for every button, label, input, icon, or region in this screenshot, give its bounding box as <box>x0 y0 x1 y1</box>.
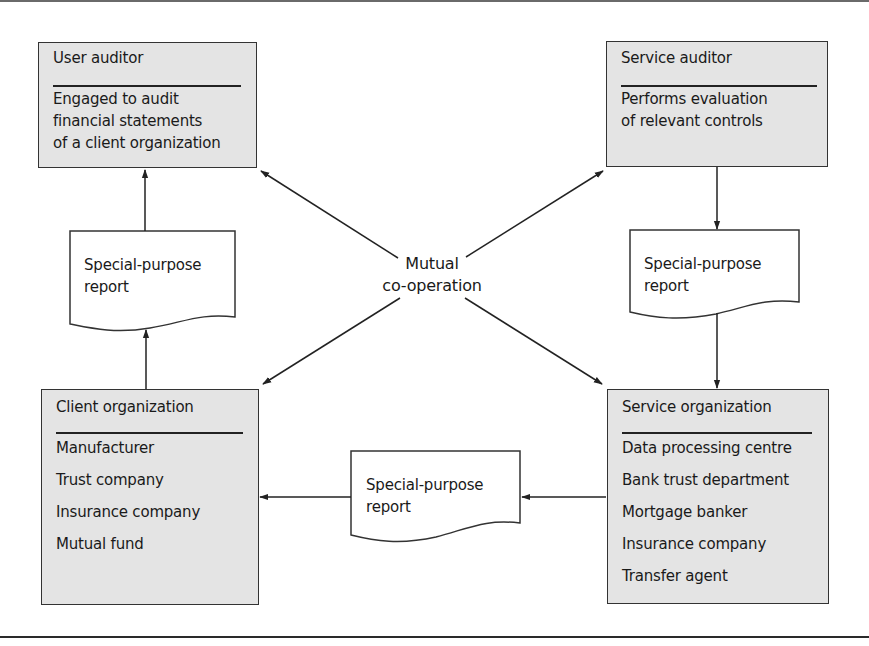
service-auditor-line: Performs evaluation <box>621 90 768 108</box>
title-underline <box>53 85 241 87</box>
arrow-mutual-to-user-auditor <box>261 171 398 258</box>
arrow-mutual-to-client <box>263 298 400 384</box>
service-organization-item: Insurance company <box>622 535 766 553</box>
client-organization-item: Trust company <box>56 471 164 489</box>
user-auditor-line: of a client organization <box>53 134 221 152</box>
mutual-cooperation-label: Mutual co-operation <box>372 253 492 297</box>
report-bottom-label: Special-purpose report <box>366 474 483 518</box>
client-organization-item: Manufacturer <box>56 439 154 457</box>
title-underline <box>56 432 243 434</box>
client-organization-item: Mutual fund <box>56 535 144 553</box>
title-underline <box>621 85 817 87</box>
service-organization-title: Service organization <box>622 398 771 416</box>
service-organization-item: Data processing centre <box>622 439 792 457</box>
arrow-mutual-to-service-org <box>465 298 602 384</box>
user-auditor-title: User auditor <box>53 49 143 67</box>
arrow-mutual-to-service-auditor <box>466 171 603 257</box>
service-auditor-title: Service auditor <box>621 49 732 67</box>
service-organization-box: Service organization Data processing cen… <box>607 389 829 604</box>
client-organization-item: Insurance company <box>56 503 200 521</box>
service-auditor-box: Service auditor Performs evaluation of r… <box>606 41 828 167</box>
user-auditor-line: Engaged to audit <box>53 90 179 108</box>
service-auditor-line: of relevant controls <box>621 112 763 130</box>
report-left-label: Special-purpose report <box>84 254 201 298</box>
user-auditor-line: financial statements <box>53 112 202 130</box>
service-organization-item: Mortgage banker <box>622 503 747 521</box>
service-organization-item: Bank trust department <box>622 471 789 489</box>
service-organization-item: Transfer agent <box>622 567 728 585</box>
report-right-label: Special-purpose report <box>644 253 761 297</box>
title-underline <box>622 432 812 434</box>
user-auditor-box: User auditor Engaged to audit financial … <box>38 42 257 168</box>
client-organization-box: Client organization Manufacturer Trust c… <box>41 389 259 605</box>
client-organization-title: Client organization <box>56 398 194 416</box>
